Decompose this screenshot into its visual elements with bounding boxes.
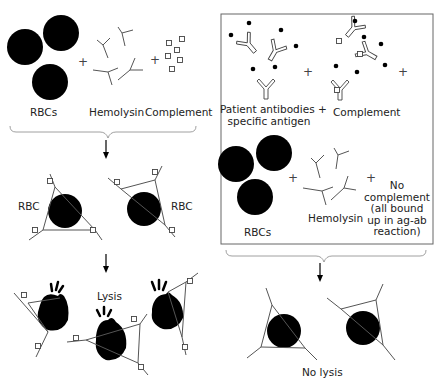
bound-complement-icon [331,15,387,100]
hemolysin-label: Hemolysin [89,106,144,118]
arrow-down-icon [103,266,109,273]
no-complement-label: No complement (all bound up in ag-ab rea… [362,180,432,238]
brace [10,126,196,138]
svg-text:+: + [288,171,298,185]
rbc-cluster [7,15,79,100]
svg-text:+: + [303,65,313,79]
unlysed-rbc-left [247,288,317,360]
plus-sign: + [150,53,160,67]
patient-antibodies-label: Patient antibodies + specific antigen [220,103,318,127]
rbc-cluster-right [218,135,292,215]
no-lysis-label: No lysis [302,366,343,378]
complement-icon [166,37,185,72]
lysed-rbc-1 [14,282,69,357]
rbcs-label-right: RBCs [244,226,271,238]
brace [226,250,426,262]
hemolysin-icon-right [303,148,356,205]
sensitized-rbc-right [108,166,175,237]
complement-label: Complement [145,106,213,118]
arrow-down-icon [317,275,323,282]
plus-sign: + [78,55,88,69]
lysis-label: Lysis [97,290,122,302]
hemolysin-icon [93,27,143,85]
lysed-rbc-3 [152,273,198,355]
rbcs-label: RBCs [30,106,57,118]
rbc-label-left: RBC [18,200,40,212]
lysed-rbc-2 [67,307,148,375]
sensitized-rbc-left [29,174,102,240]
arrow-down-icon [103,152,109,159]
rbc-label-right: RBC [171,200,193,212]
patient-antibodies-icon [229,21,299,99]
hemolysin-label-right: Hemolysin [308,212,363,224]
complement-label-right: Complement [333,106,401,118]
unlysed-rbc-right [327,284,395,360]
svg-text:+: + [398,65,408,79]
